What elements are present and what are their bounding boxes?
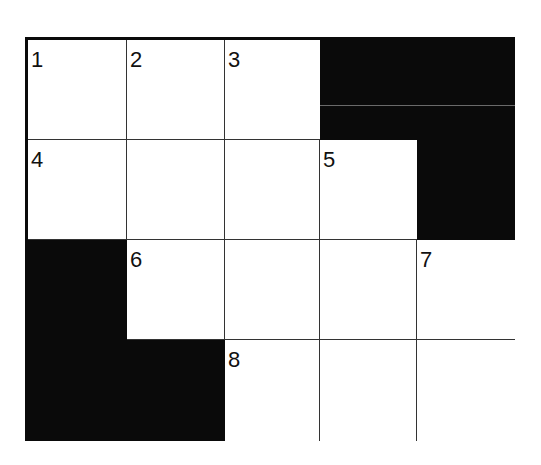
clue-number: 1 — [31, 49, 43, 71]
cell-r1-c2[interactable] — [225, 140, 320, 240]
cell-r3-c4[interactable] — [417, 340, 515, 441]
clue-number: 3 — [228, 49, 240, 71]
cell-r2-c4[interactable]: 7 — [417, 240, 515, 340]
cell-r1-c1[interactable] — [127, 140, 225, 240]
cell-r1-c3[interactable]: 5 — [320, 140, 417, 240]
clue-number: 8 — [228, 349, 240, 371]
cell-r0-c0[interactable]: 1 — [28, 40, 127, 140]
cell-r2-c1[interactable]: 6 — [127, 240, 225, 340]
cell-r0-c2[interactable]: 3 — [225, 40, 320, 140]
block-cell-r3-c1 — [127, 340, 225, 441]
block-seam-line — [320, 105, 515, 106]
cell-r1-c0[interactable]: 4 — [28, 140, 127, 240]
block-cell-r0-c4 — [417, 40, 515, 140]
cell-r0-c1[interactable]: 2 — [127, 40, 225, 140]
clue-number: 6 — [130, 249, 142, 271]
cell-r2-c3[interactable] — [320, 240, 417, 340]
cell-r2-c2[interactable] — [225, 240, 320, 340]
clue-number: 7 — [420, 249, 432, 271]
block-cell-r2-c0 — [28, 240, 127, 340]
cell-r3-c3[interactable] — [320, 340, 417, 441]
clue-number: 4 — [31, 149, 43, 171]
cell-r3-c2[interactable]: 8 — [225, 340, 320, 441]
clue-number: 2 — [130, 49, 142, 71]
block-cell-r0-c3 — [320, 40, 417, 140]
block-cell-r1-c4 — [417, 140, 515, 240]
clue-number: 5 — [323, 149, 335, 171]
crossword-grid: 1 2 3 4 5 6 7 8 — [25, 37, 515, 441]
block-cell-r3-c0 — [28, 340, 127, 441]
